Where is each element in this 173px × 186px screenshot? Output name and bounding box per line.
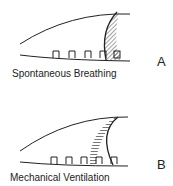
panel-spontaneous-breathing: A Spontaneous Breathing [0, 0, 173, 93]
caption-spontaneous-breathing: Spontaneous Breathing [12, 68, 117, 79]
panel-label-a: A [157, 54, 166, 69]
lung-diaphragm-diagram-a [0, 0, 173, 93]
panel-mechanical-ventilation: B Mechanical Ventilation [0, 93, 173, 186]
panel-label-b: B [157, 157, 166, 172]
caption-mechanical-ventilation: Mechanical Ventilation [10, 172, 110, 183]
